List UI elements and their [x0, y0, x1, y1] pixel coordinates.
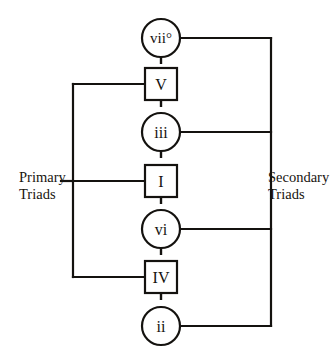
node-label-IV: IV	[153, 269, 170, 286]
node-label-vii-dim: vii°	[150, 30, 172, 46]
node-IV[interactable]: IV	[145, 261, 177, 293]
triad-diagram: vii° V iii I vi IV ii Primary Triads Sec…	[0, 0, 336, 360]
node-vi[interactable]: vi	[142, 210, 180, 248]
node-label-vi: vi	[155, 221, 168, 238]
node-label-V: V	[155, 76, 167, 93]
node-label-ii: ii	[157, 318, 166, 335]
node-label-iii: iii	[154, 124, 168, 141]
node-I[interactable]: I	[145, 165, 177, 197]
secondary-bracket	[180, 38, 271, 326]
primary-triads-label: Primary Triads	[19, 169, 66, 203]
node-ii[interactable]: ii	[142, 307, 180, 345]
primary-bracket	[61, 84, 146, 277]
node-label-I: I	[158, 173, 163, 190]
node-V[interactable]: V	[145, 68, 177, 100]
secondary-triads-label: Secondary Triads	[268, 169, 329, 203]
node-vii-dim[interactable]: vii°	[142, 19, 180, 57]
node-iii[interactable]: iii	[142, 113, 180, 151]
